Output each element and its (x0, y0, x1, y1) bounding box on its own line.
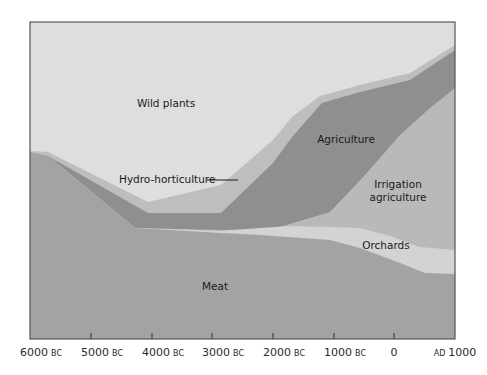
stacked-area-chart: Wild plants Hydro-horticulture Agricultu… (0, 0, 487, 375)
tick-label-6000bc: 6000BC (20, 346, 62, 359)
label-agriculture: Agriculture (317, 133, 375, 145)
label-irrigation-line2: agriculture (370, 191, 427, 203)
tick-label-4000bc: 4000BC (142, 346, 184, 359)
label-wild-plants: Wild plants (137, 97, 195, 109)
tick-label-ad1000: AD1000 (434, 346, 477, 359)
tick-label-0: 0 (391, 346, 398, 359)
tick-label-1000bc: 1000BC (324, 346, 366, 359)
x-axis-labels: 6000BC 5000BC 4000BC 3000BC 2000BC 1000B… (20, 346, 476, 359)
tick-label-3000bc: 3000BC (202, 346, 244, 359)
label-meat: Meat (202, 280, 228, 292)
label-hydro-horticulture: Hydro-horticulture (119, 173, 215, 185)
tick-label-2000bc: 2000BC (263, 346, 305, 359)
label-irrigation-line1: Irrigation (374, 178, 422, 190)
tick-label-5000bc: 5000BC (81, 346, 123, 359)
label-orchards: Orchards (362, 239, 409, 251)
